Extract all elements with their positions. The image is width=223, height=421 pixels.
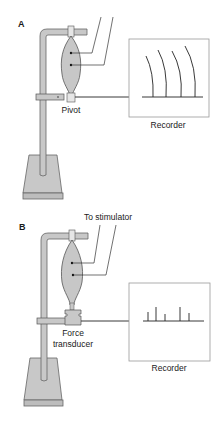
- recorder-label-a: Recorder: [151, 121, 186, 130]
- panel-b: [24, 225, 210, 406]
- panel-label-b: B: [19, 223, 26, 232]
- panel-label-a: A: [18, 20, 25, 29]
- transducer-label-line1: Force: [62, 329, 84, 338]
- transducer-label-line2: transducer: [53, 340, 93, 349]
- recorder-label-b: Recorder: [152, 364, 187, 373]
- panel-a: [23, 17, 209, 199]
- pivot-label: Pivot: [62, 106, 81, 115]
- recorder-a: [129, 39, 209, 117]
- stimulator-label: To stimulator: [84, 213, 132, 222]
- diagram-canvas: [0, 0, 223, 421]
- recorder-b: [129, 283, 210, 361]
